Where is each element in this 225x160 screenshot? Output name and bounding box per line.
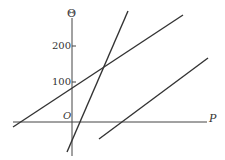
tick-label-200: 200 xyxy=(52,41,71,51)
y-axis-label: Θ xyxy=(67,8,76,19)
line-1 xyxy=(13,15,183,127)
x-axis-label: P xyxy=(209,113,216,124)
diagram: Θ P O 200 100 xyxy=(0,0,225,160)
origin-label: O xyxy=(63,111,71,121)
tick-label-100: 100 xyxy=(52,77,71,87)
line-3 xyxy=(99,58,208,139)
line-2 xyxy=(67,11,128,152)
plot-canvas xyxy=(0,0,225,160)
